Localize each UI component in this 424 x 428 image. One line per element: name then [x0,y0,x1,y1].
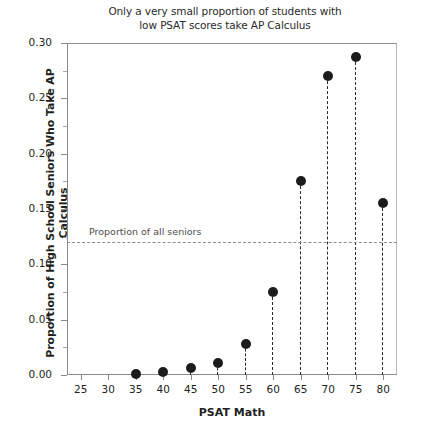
x-tick-mark [383,375,384,380]
x-tick-mark [191,375,192,380]
x-tick-label: 80 [363,383,403,395]
y-tick-minor [63,347,67,348]
y-tick-mark [61,209,67,210]
x-tick-mark [356,375,357,380]
y-tick-mark [61,320,67,321]
chart-title-line-2: low PSAT scores take AP Calculus [60,18,390,32]
x-tick-mark [81,375,82,380]
y-tick-mark [61,264,67,265]
y-tick-minor [63,181,67,182]
data-point [131,369,141,379]
y-tick-label: 0.20 [18,147,52,159]
y-tick-minor [63,126,67,127]
data-point-dropline [327,76,328,375]
y-tick-mark [61,375,67,376]
y-tick-label: 0.05 [18,313,52,325]
chart-figure: Only a very small proportion of students… [0,0,424,428]
y-tick-label: 0.10 [18,257,52,269]
y-tick-minor [63,292,67,293]
y-tick-minor [63,71,67,72]
y-tick-label: 0.15 [18,202,52,214]
y-tick-label: 0.25 [18,91,52,103]
chart-title-line-1: Only a very small proportion of students… [60,4,390,18]
x-axis-label: PSAT Math [67,406,397,419]
y-tick-mark [61,43,67,44]
data-point-dropline [355,57,356,375]
data-point-dropline [382,203,383,375]
reference-line [67,242,397,243]
x-tick-mark [328,375,329,380]
y-tick-mark [61,98,67,99]
data-point-dropline [272,292,273,375]
data-point [158,367,168,377]
x-tick-mark [301,375,302,380]
data-point [241,339,251,349]
x-tick-mark [246,375,247,380]
y-tick-mark [61,154,67,155]
data-point-dropline [300,181,301,375]
reference-line-label: Proportion of all seniors [89,226,201,237]
y-tick-label: 0.00 [18,368,52,380]
x-tick-mark [108,375,109,380]
y-tick-minor [63,237,67,238]
chart-title: Only a very small proportion of students… [60,4,390,32]
plot-area [67,43,397,375]
y-tick-label: 0.30 [18,36,52,48]
x-tick-mark [218,375,219,380]
x-tick-mark [273,375,274,380]
